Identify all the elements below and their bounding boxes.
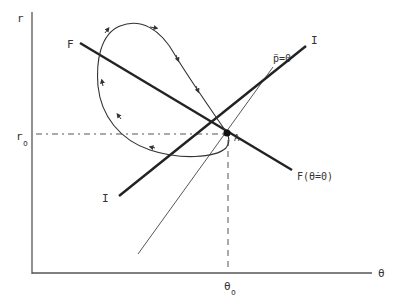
F-left-label: F [67, 38, 74, 51]
phase-diagram: r θ r o θ o p̈=0 I I F F(θ̇=0) A [0, 0, 398, 306]
equilibrium-point-A [223, 129, 230, 136]
arrow-icon [102, 81, 103, 86]
p-ddot-zero-label: p̈=0 [273, 53, 291, 64]
F-line [80, 43, 292, 170]
r0-subscript: o [23, 139, 28, 148]
y-axis-label: r [17, 12, 24, 25]
I-left-label: I [102, 192, 109, 205]
theta0-label: θ [224, 280, 231, 293]
trajectory-loop [98, 23, 229, 156]
arrow-icon [151, 147, 155, 148]
theta0-subscript: o [231, 288, 236, 297]
arrow-icon [105, 29, 108, 33]
arrow-icon [118, 115, 121, 119]
r0-label: r [16, 130, 23, 143]
I-right-label: I [311, 34, 318, 47]
p-ddot-zero-line [138, 67, 273, 254]
F-right-label: F(θ̇=0) [297, 171, 333, 182]
point-A-label: A [234, 133, 240, 143]
x-axis-label: θ [378, 267, 385, 280]
